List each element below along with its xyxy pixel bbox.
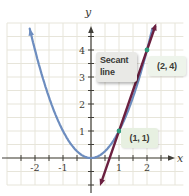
y-axis-letter: y [84,6,92,19]
y-tick-label: 4 [79,45,85,56]
x-axis-letter: x [177,152,184,165]
secant-line-label: Secant line [96,52,137,82]
secant-line-figure: -2-1121234xy Secant line (2, 4) (1, 1) [0,0,189,196]
data-point [145,48,150,53]
point-1-1-label: (1, 1) [121,128,158,148]
point-2-4-label: (2, 4) [148,56,186,76]
y-tick-label: 3 [79,72,85,83]
y-tick-label: 2 [79,99,85,110]
y-axis-arrow [88,26,94,33]
x-tick-label: 2 [144,162,150,173]
graph-canvas: -2-1121234xy [0,0,189,196]
x-tick-label: -1 [58,162,67,173]
x-axis-arrow [168,155,175,161]
x-tick-label: -2 [30,162,39,173]
secant-line-label-line2: line [100,67,115,79]
secant-line-label-line1: Secant [100,55,128,67]
y-tick-label: 1 [79,126,85,137]
x-tick-label: 1 [116,162,122,173]
